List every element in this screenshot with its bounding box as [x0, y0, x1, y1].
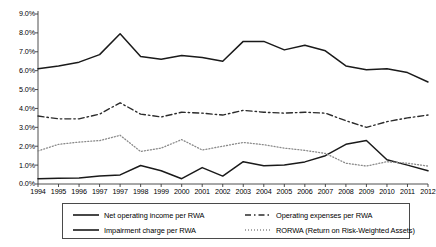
x-axis-tick-label: 2002: [215, 188, 230, 195]
x-axis-tick-label: 1997: [92, 188, 107, 195]
x-axis-tick-label: 2005: [277, 188, 292, 195]
series-line: [38, 135, 428, 166]
series-line: [38, 34, 428, 82]
series-line: [38, 141, 428, 179]
legend-item-net-operating-income: Net operating income per RWA: [73, 209, 204, 221]
legend-item-operating-expenses: Operating expenses per RWA: [245, 209, 372, 221]
plot-area: 0.0%1.0%2.0%3.0%4.0%5.0%6.0%7.0%8.0%9.0%…: [0, 0, 435, 200]
series-line: [38, 103, 428, 128]
legend-swatch-dotted-icon: [245, 225, 271, 235]
x-axis-tick-label: 2009: [359, 188, 374, 195]
legend-swatch-solid-icon: [73, 225, 99, 235]
x-axis-tick-label: 1997: [112, 188, 127, 195]
legend-label: RORWA (Return on Risk-Weighted Assets): [276, 226, 415, 235]
x-axis-tick-label: 2012: [420, 188, 435, 195]
x-axis-tick-label: 1999: [153, 188, 168, 195]
x-axis-tick-label: 1995: [51, 188, 66, 195]
legend-label: Operating expenses per RWA: [276, 211, 372, 220]
x-axis-tick-label: 2011: [400, 188, 415, 195]
x-axis-tick-label: 2004: [256, 188, 271, 195]
x-axis-tick-label: 1998: [133, 188, 148, 195]
x-axis-tick-label: 1996: [71, 188, 86, 195]
chart-canvas: [0, 0, 435, 200]
legend-swatch-solid-icon: [73, 210, 99, 220]
x-axis-tick-label: 2001: [195, 188, 210, 195]
x-axis-tick-label: 2003: [236, 188, 251, 195]
legend-swatch-dashed-icon: [245, 210, 271, 220]
x-axis-tick-label: 2010: [379, 188, 394, 195]
legend-item-rorwa: RORWA (Return on Risk-Weighted Assets): [245, 224, 415, 236]
legend-item-impairment-charge: Impairment charge per RWA: [73, 224, 196, 236]
axis-lines: [35, 11, 428, 187]
x-axis-tick-label: 2000: [174, 188, 189, 195]
chart-legend: Net operating income per RWA Operating e…: [62, 203, 410, 239]
data-series-layer: [38, 34, 428, 179]
legend-label: Impairment charge per RWA: [104, 226, 196, 235]
x-axis-tick-label: 2006: [297, 188, 312, 195]
x-axis-tick-labels: 1994199519961997199719981999200020012002…: [0, 188, 435, 200]
x-axis-tick-label: 2008: [338, 188, 353, 195]
legend-label: Net operating income per RWA: [104, 211, 204, 220]
x-axis-tick-label: 2007: [318, 188, 333, 195]
x-axis-tick-label: 1994: [30, 188, 45, 195]
